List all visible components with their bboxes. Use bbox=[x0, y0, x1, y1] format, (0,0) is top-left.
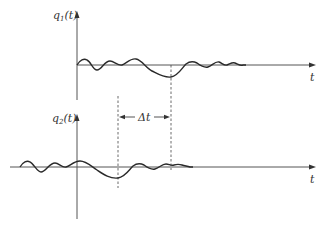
time-delay-diagram: q1(t) t Δt q2(t) t bbox=[0, 0, 325, 228]
top-plot: q1(t) t bbox=[53, 9, 316, 100]
top-x-label: t bbox=[310, 71, 315, 84]
delay-annotation: Δt bbox=[119, 111, 170, 124]
bottom-y-label: q2(t) bbox=[52, 112, 77, 126]
delay-label: Δt bbox=[137, 111, 151, 124]
signal-q1-curve bbox=[77, 59, 246, 77]
delay-arrow-right-icon bbox=[164, 115, 170, 119]
bottom-x-label: t bbox=[310, 173, 315, 186]
signal-q2-curve bbox=[20, 161, 193, 178]
top-x-axis-arrow-icon bbox=[309, 63, 316, 68]
delay-arrow-left-icon bbox=[119, 115, 125, 119]
top-y-label: q1(t) bbox=[53, 9, 78, 23]
bottom-plot: q2(t) t bbox=[10, 112, 316, 219]
bottom-x-axis-arrow-icon bbox=[309, 165, 316, 170]
